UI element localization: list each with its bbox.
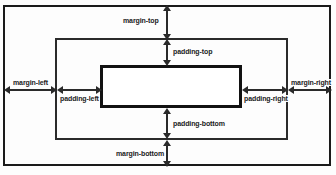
padding-right-rail xyxy=(246,89,284,91)
label-padding-right: padding-right xyxy=(243,95,289,102)
label-padding-left: padding-left xyxy=(59,95,100,102)
margin-right-arrowhead-right xyxy=(326,86,332,94)
padding-left-arrowhead-left xyxy=(57,86,63,94)
box-model-diagram: margin-top padding-top margin-left paddi… xyxy=(0,0,336,175)
label-padding-bottom: padding-bottom xyxy=(172,120,226,127)
label-padding-top: padding-top xyxy=(172,48,213,55)
label-margin-bottom: margin-bottom xyxy=(115,150,165,157)
padding-bottom-arrowhead-up xyxy=(163,108,171,114)
margin-right-rail xyxy=(292,89,328,91)
label-margin-left: margin-left xyxy=(12,79,49,86)
margin-right-arrowhead-left xyxy=(288,86,294,94)
margin-bottom-arrowhead-up xyxy=(163,140,171,146)
margin-left-arrowhead-left xyxy=(4,86,10,94)
label-margin-top: margin-top xyxy=(122,17,160,24)
margin-bottom-arrowhead-down xyxy=(163,161,171,167)
padding-top-arrowhead-up xyxy=(163,39,171,45)
padding-top-arrowhead-down xyxy=(163,60,171,66)
content-box-outline xyxy=(100,65,242,108)
padding-left-rail xyxy=(61,89,98,91)
label-margin-right: margin-right xyxy=(290,79,332,86)
margin-top-arrowhead-up xyxy=(163,5,171,11)
margin-top-rail xyxy=(166,8,168,35)
margin-left-rail xyxy=(8,89,53,91)
padding-bottom-arrowhead-down xyxy=(163,133,171,139)
padding-right-arrowhead-left xyxy=(242,86,248,94)
padding-left-arrowhead-right xyxy=(96,86,102,94)
